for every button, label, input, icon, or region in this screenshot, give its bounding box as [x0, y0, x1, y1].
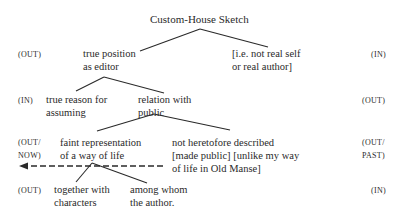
row1-left-tag: (OUT): [18, 48, 41, 61]
node-together-with-characters: together with characters: [54, 183, 110, 209]
edge-editor-to-relation-public: [104, 77, 164, 93]
diagram-title: Custom-House Sketch: [150, 13, 249, 26]
node-among-whom: among whom the author.: [130, 183, 187, 209]
edge-title-to-not-real-self: [200, 29, 268, 47]
node-relation-with-public: relation with public: [138, 93, 191, 119]
node-true-position: true position as editor: [83, 47, 136, 73]
edge-title-to-true-position: [140, 29, 200, 51]
row1-right-tag: (IN): [371, 48, 386, 61]
row4-right-tag: (IN): [371, 184, 386, 197]
row3-right-tag: (OUT/ PAST): [362, 136, 385, 162]
edge-editor-to-true-reason: [76, 77, 104, 91]
row2-right-tag: (OUT): [362, 94, 385, 107]
row3-left-tag: (OUT/ NOW): [18, 136, 41, 162]
node-not-real-self: [i.e. not real self or real author]: [232, 47, 301, 73]
row2-left-tag: (IN): [18, 94, 33, 107]
edge-way-of-life-to-among-whom: [92, 163, 147, 183]
arrowhead-left-icon: [19, 163, 28, 170]
node-not-heretofore-described: not heretofore described [made public] […: [172, 136, 299, 175]
row4-left-tag: (OUT): [18, 184, 41, 197]
node-true-reason: true reason for assuming: [46, 93, 107, 119]
node-faint-representation: faint representation of a way of life: [60, 136, 141, 162]
